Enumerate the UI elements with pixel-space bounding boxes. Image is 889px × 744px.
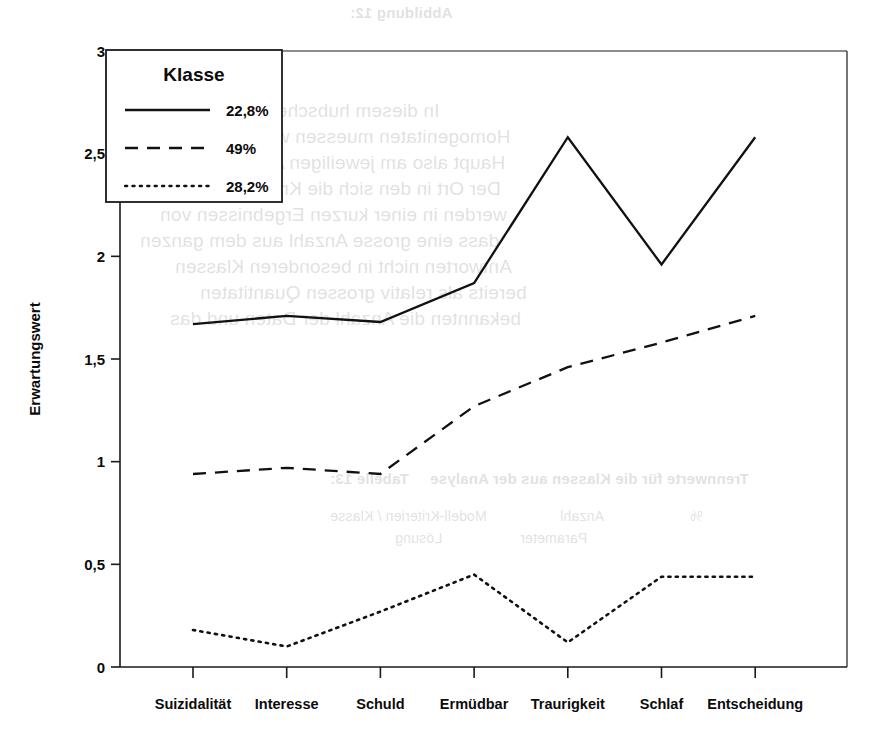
series-group	[193, 137, 755, 646]
y-tick-label: 2	[97, 248, 105, 265]
y-tick-label: 3	[97, 43, 105, 60]
y-tick-label: 2,5	[84, 145, 105, 162]
line-chart: 00,511,522,53 SuizidalitätInteresseSchul…	[0, 0, 889, 744]
y-tick-label: 0	[97, 659, 105, 676]
y-axis-title: Erwartungswert	[26, 302, 43, 415]
series-line-282	[193, 575, 755, 647]
series-line-49	[193, 316, 755, 474]
legend-entry-label: 22,8%	[226, 102, 269, 119]
legend-title: Klasse	[163, 64, 224, 85]
y-tick-label: 1,5	[84, 351, 105, 368]
x-tick-label: Suizidalität	[155, 696, 232, 712]
x-tick-label: Traurigkeit	[531, 696, 605, 712]
x-tick-label: Schlaf	[640, 696, 684, 712]
legend-entry-label: 28,2%	[226, 178, 269, 195]
y-tick-label: 0,5	[84, 556, 105, 573]
chart-canvas: 00,511,522,53 SuizidalitätInteresseSchul…	[0, 0, 889, 744]
x-tick-label: Ermüdbar	[440, 696, 509, 712]
x-tick-label: Interesse	[255, 696, 319, 712]
y-tick-label: 1	[97, 453, 105, 470]
legend-entry-label: 49%	[226, 140, 256, 157]
x-tick-label: Entscheidung	[707, 696, 803, 712]
x-tick-label: Schuld	[356, 696, 404, 712]
chart-legend: Klasse 22,8%49%28,2%	[106, 50, 282, 202]
x-tick-group: SuizidalitätInteresseSchuldErmüdbarTraur…	[155, 667, 803, 712]
